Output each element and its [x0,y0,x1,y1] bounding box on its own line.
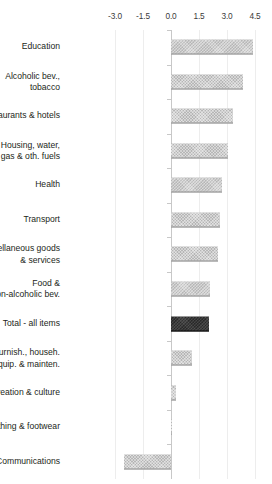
bar-chart: -3.0-1.50.01.53.04.5 EducationAlcoholic … [0,0,272,484]
bar-3 [171,143,228,158]
axis-tick-3 [167,134,171,135]
axis-tick-1 [167,65,171,66]
category-label-12: Communications [0,456,60,467]
chart-row: Food & non-alcoholic bev. [0,272,272,307]
x-axis-tick-labels: -3.0-1.50.01.53.04.5 [0,0,272,30]
axis-tick-7 [167,272,171,273]
category-label-9: Furnish., househ. equip. & mainten. [0,347,60,370]
category-label-2: Restaurants & hotels [0,111,60,122]
chart-row: Health [0,168,272,203]
axis-tick-10 [167,375,171,376]
chart-row: Education [0,30,272,65]
bar-9 [171,351,192,366]
bar-7 [171,282,210,297]
axis-tick-12 [167,444,171,445]
chart-row: Transport [0,203,272,238]
chart-row: Recreation & culture [0,375,272,410]
chart-row: Communications [0,444,272,479]
category-label-11: Clothing & footwear [0,421,60,432]
bar-4 [171,178,222,193]
axis-tick-2 [167,99,171,100]
bar-6 [171,247,218,262]
axis-tick-0 [167,30,171,31]
category-label-1: Alcoholic bev., tobacco [0,70,60,93]
plot-area: EducationAlcoholic bev., tobaccoRestaura… [0,30,272,479]
x-tick-label-1: -1.5 [136,11,150,21]
chart-row: Total - all items [0,306,272,341]
bar-0 [171,40,253,55]
axis-tick-6 [167,237,171,238]
bar-5 [171,212,220,227]
chart-row: Furnish., househ. equip. & mainten. [0,341,272,376]
category-label-10: Recreation & culture [0,387,60,398]
bar-2 [171,109,233,124]
axis-tick-11 [167,410,171,411]
category-label-8: Total - all items [0,318,60,329]
x-tick-label-4: 3.0 [221,11,232,21]
category-label-4: Health [0,180,60,191]
category-label-7: Food & non-alcoholic bev. [0,278,60,301]
bar-11 [171,420,172,435]
bar-8 [171,316,209,331]
bar-10 [171,385,176,400]
axis-tick-5 [167,203,171,204]
chart-row: Restaurants & hotels [0,99,272,134]
axis-tick-8 [167,306,171,307]
x-tick-label-2: 0.0 [165,11,176,21]
bar-1 [171,74,243,89]
chart-row: Alcoholic bev., tobacco [0,65,272,100]
axis-tick-4 [167,168,171,169]
chart-row: Clothing & footwear [0,410,272,445]
x-tick-label-5: 4.5 [249,11,260,21]
chart-row: Housing, water, elec., gas & oth. fuels [0,134,272,169]
bar-12 [124,454,171,469]
category-label-6: Miscellaneous goods & services [0,243,60,266]
x-tick-label-0: -3.0 [108,11,122,21]
chart-row: Miscellaneous goods & services [0,237,272,272]
category-label-3: Housing, water, elec., gas & oth. fuels [0,139,60,162]
x-tick-label-3: 1.5 [193,11,204,21]
category-label-0: Education [0,42,60,53]
category-label-5: Transport [0,214,60,225]
axis-tick-9 [167,341,171,342]
